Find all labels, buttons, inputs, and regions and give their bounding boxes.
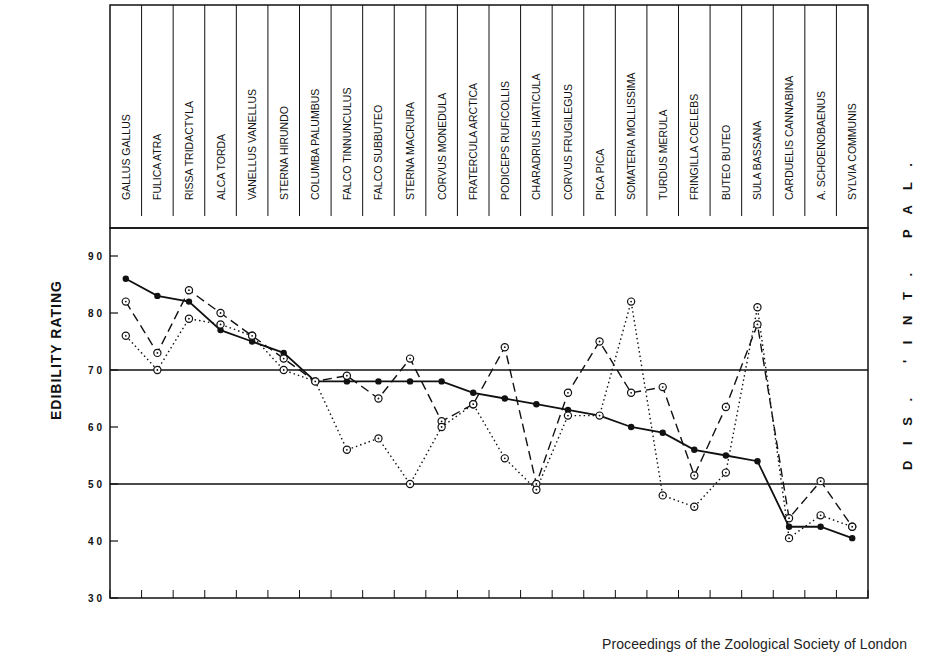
- data-point: [723, 452, 729, 458]
- y-tick-label: 9 0: [88, 251, 102, 262]
- species-label: FRATERCULA ARCTICA: [467, 83, 479, 200]
- data-point: [849, 535, 855, 541]
- species-label: BUTEO BUTEO: [720, 125, 732, 200]
- species-label: SYLVIA COMMUNIS: [846, 103, 858, 200]
- series-dotted-line: [126, 302, 852, 539]
- data-point: [754, 458, 760, 464]
- data-point: [407, 378, 413, 384]
- y-tick-label: 5 0: [88, 479, 102, 490]
- species-label: CORVUS FRUGILEGUS: [562, 84, 574, 200]
- y-axis-label: EDIBILITY RATING: [48, 280, 64, 420]
- data-point: [786, 524, 792, 530]
- y-tick-label: 7 0: [88, 365, 102, 376]
- species-label: ALCA TORDA: [215, 134, 227, 200]
- data-point: [817, 524, 823, 530]
- species-label: A. SCHOENOBAENUS: [815, 91, 827, 200]
- data-point: [691, 447, 697, 453]
- data-point: [628, 424, 634, 430]
- series-solid-line: [126, 279, 852, 538]
- data-point: [438, 378, 444, 384]
- right-axis-label: D I S . ' I N T . P A L .: [900, 157, 915, 470]
- species-label: RISSA TRIDACTYLA: [183, 101, 195, 200]
- species-label: SOMATERIA MOLLISSIMA: [625, 72, 637, 200]
- data-point: [470, 390, 476, 396]
- species-label: SULA BASSANA: [751, 121, 763, 200]
- source-caption: Proceedings of the Zoological Society of…: [602, 636, 907, 652]
- species-label: PICA PICA: [594, 149, 606, 200]
- species-label: CORVUS MONEDULA: [436, 93, 448, 200]
- data-point: [154, 293, 160, 299]
- species-label: PODICEPS RUFICOLLIS: [499, 81, 511, 200]
- y-tick-label: 4 0: [88, 536, 102, 547]
- y-tick-label: 8 0: [88, 308, 102, 319]
- species-label: FRINGILLA COELEBS: [688, 94, 700, 200]
- species-label: FULICA ATRA: [151, 134, 163, 200]
- species-label: CHARADRIUS HIATICULA: [530, 74, 542, 200]
- data-point: [186, 298, 192, 304]
- species-label: FALCO SUBBUTEO: [372, 105, 384, 200]
- data-point: [533, 401, 539, 407]
- species-label: TURDUS MERULA: [657, 110, 669, 200]
- species-label: STERNA MACRURA: [404, 102, 416, 200]
- species-label: COLUMBA PALUMBUS: [309, 89, 321, 200]
- species-label: STERNA HIRUNDO: [278, 106, 290, 200]
- data-point: [502, 395, 508, 401]
- y-tick-label: 6 0: [88, 422, 102, 433]
- data-point: [375, 378, 381, 384]
- species-label: FALCO TINNUNCULUS: [341, 88, 353, 200]
- data-point: [123, 276, 129, 282]
- species-label: VANELLUS VANELLUS: [246, 89, 258, 200]
- series-dashed-line: [126, 290, 852, 527]
- species-label: CARDUELIS CANNABINA: [783, 76, 795, 200]
- y-tick-label: 3 0: [88, 593, 102, 604]
- data-point: [660, 430, 666, 436]
- species-label: GALLUS GALLUS: [120, 114, 132, 200]
- plot-area: [110, 228, 868, 598]
- edibility-chart: GALLUS GALLUSFULICA ATRARISSA TRIDACTYLA…: [0, 0, 942, 663]
